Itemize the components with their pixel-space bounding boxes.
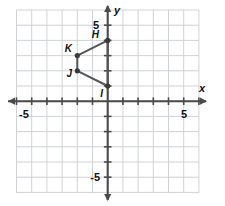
vertex-point-k [75, 53, 80, 58]
vertex-label-j: J [66, 68, 72, 79]
vertex-point-i [105, 83, 110, 88]
vertex-label-k: K [65, 43, 73, 54]
graph-svg: y x -5 5 5 -5 H K J I [0, 0, 225, 206]
y-axis-label: y [113, 4, 121, 16]
x-axis-label: x [198, 82, 206, 94]
vertex-label-i: I [100, 88, 103, 99]
vertex-label-h: H [92, 29, 100, 40]
y-tick-label-neg5: -5 [90, 171, 100, 183]
canvas-background [0, 0, 225, 206]
coordinate-plane-figure: y x -5 5 5 -5 H K J I [0, 0, 225, 206]
vertex-point-j [75, 68, 80, 73]
x-tick-label-pos5: 5 [181, 108, 187, 120]
vertex-point-h [105, 38, 110, 43]
x-tick-label-neg5: -5 [19, 108, 29, 120]
